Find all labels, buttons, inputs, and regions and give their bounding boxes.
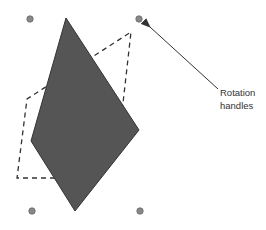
rotation-handle-bottom-left[interactable] (29, 208, 35, 214)
rotation-handles-label: Rotation handles (220, 86, 255, 112)
label-line-1: Rotation (220, 86, 255, 99)
rotation-handle-top-left[interactable] (27, 16, 33, 22)
callout-arrow (150, 27, 218, 89)
diagram-canvas (0, 0, 266, 230)
rotation-handle-top-right[interactable] (136, 16, 142, 22)
label-line-2: handles (220, 99, 255, 112)
rotated-shape[interactable] (31, 18, 139, 211)
rotation-handle-bottom-right[interactable] (137, 208, 143, 214)
